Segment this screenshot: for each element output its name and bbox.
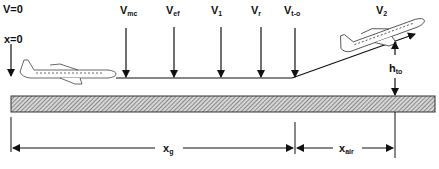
marker-v2: V2 bbox=[376, 4, 387, 17]
marker-vef: Vef bbox=[166, 4, 180, 77]
takeoff-diagram: V=0 x=0 Vmc Vef V1 Vr Vt-o V2 hto xg bbox=[0, 0, 439, 169]
svg-text:V2: V2 bbox=[376, 4, 387, 17]
x-zero-label: x=0 bbox=[4, 33, 23, 45]
svg-text:Vr: Vr bbox=[251, 4, 261, 17]
marker-vto: Vt-o bbox=[284, 4, 300, 77]
v-zero-label: V=0 bbox=[3, 3, 23, 15]
svg-text:Vef: Vef bbox=[166, 4, 180, 17]
marker-vr: Vr bbox=[251, 4, 261, 77]
svg-text:Vt-o: Vt-o bbox=[284, 4, 300, 17]
svg-text:Vmc: Vmc bbox=[120, 4, 138, 17]
airplane-ground-icon bbox=[20, 60, 116, 84]
height-dimension: hto bbox=[389, 42, 402, 95]
svg-text:hto: hto bbox=[389, 62, 402, 75]
xg-label: xg bbox=[163, 142, 173, 156]
runway bbox=[11, 96, 435, 112]
xair-label: xair bbox=[339, 142, 354, 155]
marker-v1: V1 bbox=[211, 4, 222, 77]
svg-text:V1: V1 bbox=[211, 4, 222, 17]
distance-dimensions: xg xair bbox=[11, 112, 395, 158]
marker-vmc: Vmc bbox=[120, 4, 138, 77]
